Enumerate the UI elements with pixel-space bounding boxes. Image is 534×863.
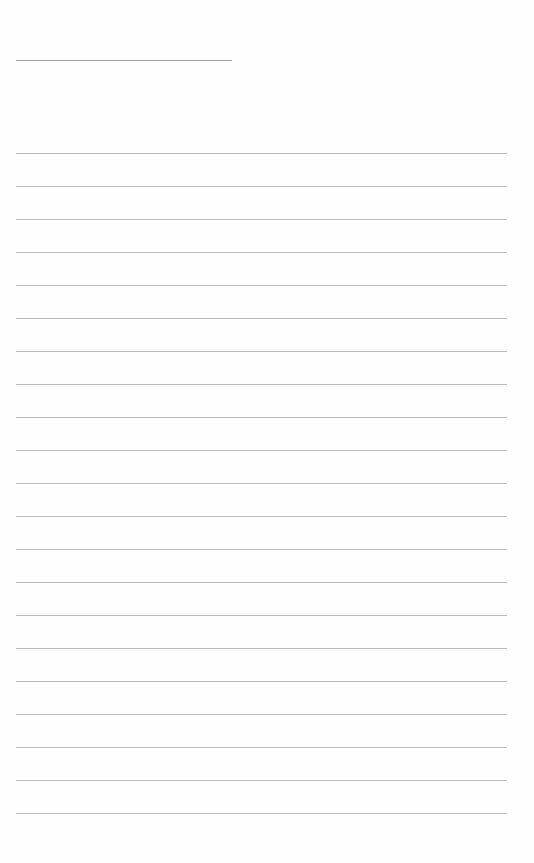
ruled-line [16, 417, 507, 418]
ruled-line [16, 153, 507, 154]
ruled-line [16, 318, 507, 319]
ruled-line [16, 252, 507, 253]
ruled-line [16, 186, 507, 187]
ruled-line [16, 747, 507, 748]
ruled-line [16, 351, 507, 352]
ruled-line [16, 450, 507, 451]
lined-paper-page [0, 0, 534, 863]
ruled-line [16, 582, 507, 583]
ruled-line [16, 483, 507, 484]
ruled-line [16, 516, 507, 517]
ruled-line [16, 549, 507, 550]
ruled-line [16, 219, 507, 220]
ruled-line [16, 648, 507, 649]
title-line [16, 60, 232, 61]
ruled-line [16, 714, 507, 715]
ruled-line [16, 813, 507, 814]
ruled-line [16, 285, 507, 286]
ruled-line [16, 780, 507, 781]
ruled-line [16, 384, 507, 385]
ruled-line [16, 681, 507, 682]
ruled-line [16, 615, 507, 616]
